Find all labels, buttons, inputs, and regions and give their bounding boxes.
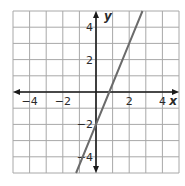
y-tick-label: 2 (86, 54, 93, 67)
y-axis-label: y (104, 9, 113, 23)
coordinate-plane: −4−22442−2−4 x y (0, 0, 185, 186)
x-tick-label: 2 (126, 95, 133, 108)
x-axis-label: x (168, 94, 178, 108)
y-axis-down-arrow-icon (93, 166, 99, 173)
y-axis-up-arrow-icon (93, 11, 99, 18)
y-tick-label: −2 (77, 118, 93, 131)
x-tick-label: 4 (159, 95, 166, 108)
x-tick-label: −4 (21, 95, 37, 108)
x-axis-left-arrow-icon (13, 89, 20, 95)
x-tick-label: −2 (55, 95, 71, 108)
y-tick-label: 4 (86, 21, 93, 34)
axes (13, 11, 179, 173)
